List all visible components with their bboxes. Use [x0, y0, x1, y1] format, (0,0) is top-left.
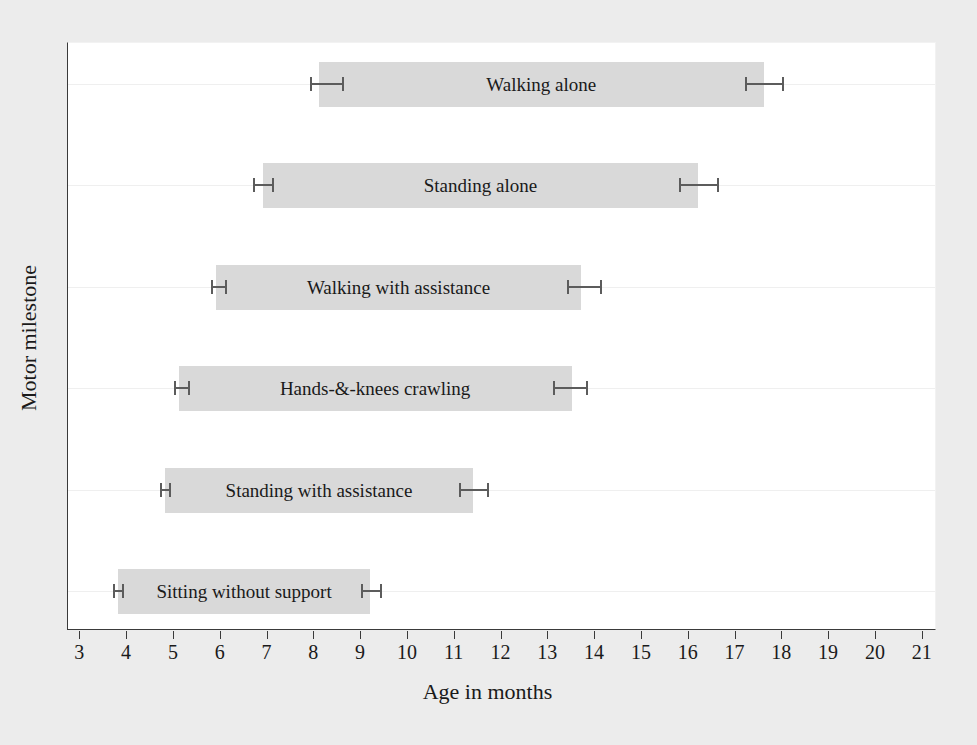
error-bar-cap	[380, 584, 382, 598]
x-axis-tick-label: 8	[293, 641, 333, 664]
error-bar-cap	[211, 280, 213, 294]
bar[interactable]	[165, 468, 474, 513]
error-bar-cap	[169, 483, 171, 497]
x-axis-tick	[407, 631, 408, 639]
x-axis-tick-label: 14	[574, 641, 614, 664]
x-axis-tick	[547, 631, 548, 639]
x-axis-tick	[828, 631, 829, 639]
bar[interactable]	[118, 569, 371, 614]
error-bar-cap	[225, 280, 227, 294]
x-axis-tick	[173, 631, 174, 639]
x-axis-tick-label: 3	[59, 641, 99, 664]
error-bar-cap	[160, 483, 162, 497]
error-bar-cap	[717, 178, 719, 192]
x-axis-tick	[267, 631, 268, 639]
error-bar-cap	[600, 280, 602, 294]
x-axis-tick	[922, 631, 923, 639]
plot-frame: Walking aloneStanding aloneWalking with …	[67, 42, 936, 630]
figure: Walking aloneStanding aloneWalking with …	[0, 0, 977, 745]
error-bar-end	[567, 286, 600, 288]
x-axis-tick	[735, 631, 736, 639]
error-bar-end	[679, 184, 716, 186]
error-bar-end	[553, 387, 586, 389]
x-axis-tick	[688, 631, 689, 639]
x-axis-tick	[79, 631, 80, 639]
x-axis-tick	[454, 631, 455, 639]
x-axis-tick-label: 4	[106, 641, 146, 664]
error-bar-start	[253, 184, 272, 186]
error-bar-cap	[310, 77, 312, 91]
bar[interactable]	[179, 366, 572, 411]
x-axis-tick-label: 16	[668, 641, 708, 664]
error-bar-cap	[745, 77, 747, 91]
plot-area: Walking aloneStanding aloneWalking with …	[68, 43, 935, 629]
error-bar-cap	[567, 280, 569, 294]
error-bar-cap	[782, 77, 784, 91]
x-axis-tick	[360, 631, 361, 639]
x-axis-title: Age in months	[0, 679, 977, 705]
x-axis-tick	[594, 631, 595, 639]
error-bar-end	[745, 83, 782, 85]
error-bar-cap	[487, 483, 489, 497]
x-axis-tick-label: 21	[902, 641, 942, 664]
x-axis-tick-label: 17	[715, 641, 755, 664]
x-axis-tick	[220, 631, 221, 639]
x-axis-tick-label: 6	[200, 641, 240, 664]
x-axis-tick-label: 19	[808, 641, 848, 664]
x-axis-tick-label: 12	[481, 641, 521, 664]
error-bar-cap	[174, 381, 176, 395]
x-axis-tick-label: 20	[855, 641, 895, 664]
error-bar-start	[310, 83, 343, 85]
error-bar-cap	[586, 381, 588, 395]
error-bar-cap	[553, 381, 555, 395]
x-axis-title-text: Age in months	[423, 679, 553, 705]
x-axis-tick-label: 7	[247, 641, 287, 664]
y-axis-title: Motor milestone	[16, 44, 42, 632]
error-bar-start	[211, 286, 225, 288]
error-bar-cap	[272, 178, 274, 192]
bar[interactable]	[319, 62, 764, 107]
error-bar-cap	[122, 584, 124, 598]
error-bar-cap	[113, 584, 115, 598]
x-axis-tick-label: 13	[527, 641, 567, 664]
x-axis-tick-label: 11	[434, 641, 474, 664]
error-bar-cap	[188, 381, 190, 395]
x-axis-tick-label: 5	[153, 641, 193, 664]
x-axis-tick-label: 9	[340, 641, 380, 664]
x-axis-tick-label: 18	[761, 641, 801, 664]
x-axis-tick-label: 15	[621, 641, 661, 664]
bar[interactable]	[216, 265, 581, 310]
error-bar-cap	[361, 584, 363, 598]
error-bar-cap	[342, 77, 344, 91]
x-axis-tick	[641, 631, 642, 639]
error-bar-end	[459, 489, 487, 491]
x-axis-tick	[501, 631, 502, 639]
x-axis-tick	[875, 631, 876, 639]
error-bar-start	[174, 387, 188, 389]
error-bar-cap	[459, 483, 461, 497]
error-bar-cap	[679, 178, 681, 192]
error-bar-cap	[253, 178, 255, 192]
error-bar-end	[361, 590, 380, 592]
x-axis-tick	[781, 631, 782, 639]
x-axis-tick	[126, 631, 127, 639]
bar[interactable]	[263, 163, 698, 208]
x-axis-tick	[313, 631, 314, 639]
x-axis-tick-label: 10	[387, 641, 427, 664]
